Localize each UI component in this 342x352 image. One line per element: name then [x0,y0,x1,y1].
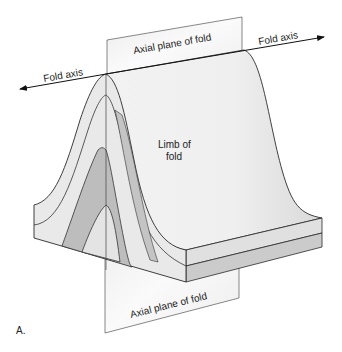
figure-letter: A. [16,325,25,336]
label-limb-line2: fold [166,151,182,162]
fold-diagram: Fold axis Fold axis Axial plane of fold … [0,0,342,352]
label-limb-line1: Limb of [158,139,191,150]
